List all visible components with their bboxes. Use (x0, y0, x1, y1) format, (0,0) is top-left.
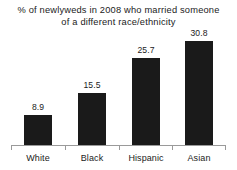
bar-group-hispanic: 25.7 (119, 30, 173, 145)
bar-value-asian: 30.8 (190, 28, 207, 38)
x-axis-tick-1 (65, 145, 66, 150)
bar-rect-asian[interactable] (185, 41, 213, 145)
bar-rect-black[interactable] (78, 93, 106, 145)
bar-rect-hispanic[interactable] (132, 58, 160, 145)
bar-value-white: 8.9 (32, 102, 44, 112)
bar-group-black: 15.5 (65, 30, 119, 145)
bar-value-black: 15.5 (83, 80, 100, 90)
bar-value-hispanic: 25.7 (137, 45, 154, 55)
bar-group-white: 8.9 (11, 30, 65, 145)
x-axis-tick-3 (172, 145, 173, 150)
bar-group-asian: 30.8 (172, 30, 226, 145)
category-label-asian: Asian (172, 152, 226, 164)
x-axis-tick-0 (11, 145, 12, 150)
chart-title-line-2: of a different race/ethnicity (0, 16, 237, 28)
x-axis-tick-2 (119, 145, 120, 150)
category-label-hispanic: Hispanic (119, 152, 173, 164)
category-label-white: White (11, 152, 65, 164)
plot-area: 8.9 15.5 25.7 30.8 (0, 30, 237, 145)
x-axis-tick-4 (225, 145, 226, 150)
bar-chart-figure: % of newlyweds in 2008 who married someo… (0, 0, 237, 170)
category-label-black: Black (65, 152, 119, 164)
chart-title: % of newlyweds in 2008 who married someo… (0, 4, 237, 28)
chart-title-line-1: % of newlyweds in 2008 who married someo… (0, 4, 237, 16)
category-axis-labels: White Black Hispanic Asian (0, 152, 237, 166)
bar-rect-white[interactable] (24, 115, 52, 145)
